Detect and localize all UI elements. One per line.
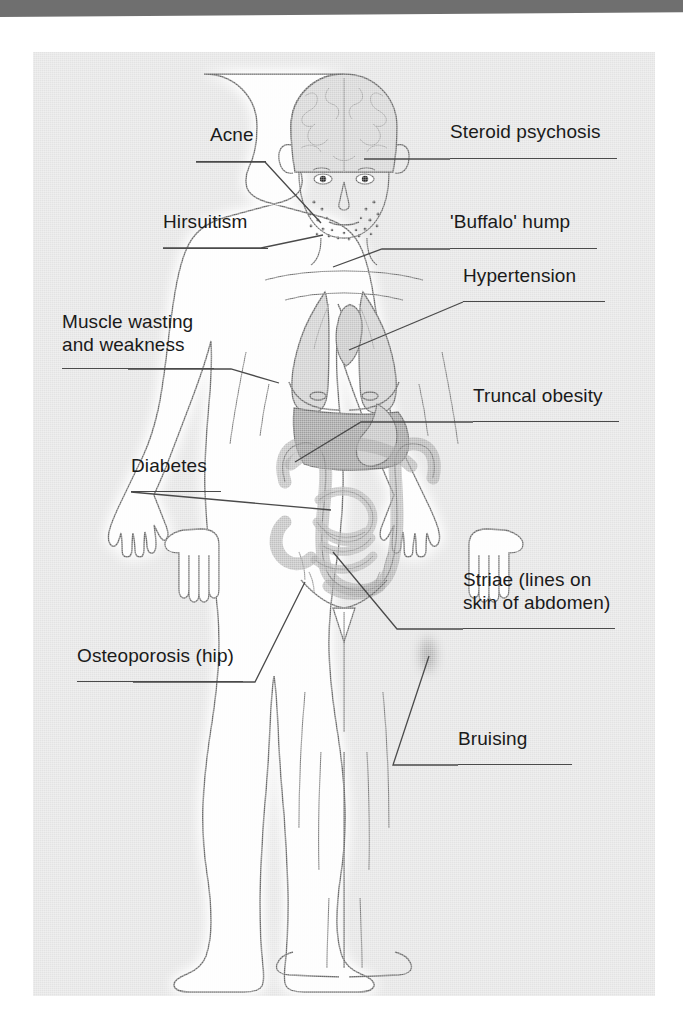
label-osteoporosis: Osteoporosis (hip): [77, 644, 234, 667]
label-bruising: Bruising: [458, 727, 527, 750]
label-diabetes: Diabetes: [131, 454, 207, 477]
rule-bruising: [458, 764, 572, 765]
rule-striae: [463, 628, 615, 629]
label-striae: Striae (lines on skin of abdomen): [463, 568, 610, 614]
rule-truncal-obesity: [473, 421, 619, 422]
page-top-rule: [0, 0, 683, 17]
rule-hirsuitism: [163, 248, 268, 249]
label-steroid-psychosis: Steroid psychosis: [450, 120, 601, 143]
label-muscle-wasting: Muscle wasting and weakness: [62, 310, 193, 356]
label-striae-line1: Striae (lines on: [463, 569, 591, 590]
rule-muscle-wasting: [62, 368, 214, 369]
label-muscle-wasting-line2: and weakness: [62, 334, 185, 355]
label-acne: Acne: [210, 123, 254, 146]
rule-acne: [196, 161, 266, 162]
patient-body-illustration: [33, 52, 655, 996]
label-truncal-obesity: Truncal obesity: [473, 384, 603, 407]
rule-diabetes: [131, 491, 221, 492]
scanned-page: Steroid psychosis 'Buffalo' hump Hyperte…: [0, 0, 683, 1034]
rule-osteoporosis: [77, 681, 243, 682]
rule-buffalo-hump: [450, 248, 597, 249]
nose-icon: [339, 182, 349, 210]
illustration-panel: Steroid psychosis 'Buffalo' hump Hyperte…: [33, 52, 655, 996]
rule-hypertension: [463, 301, 605, 302]
bruise-icon: [416, 631, 440, 679]
label-muscle-wasting-line1: Muscle wasting: [62, 311, 193, 332]
label-hirsuitism: Hirsuitism: [163, 210, 247, 233]
rule-steroid-psychosis: [450, 158, 617, 159]
label-buffalo-hump: 'Buffalo' hump: [450, 210, 570, 233]
label-hypertension: Hypertension: [463, 264, 576, 287]
label-striae-line2: skin of abdomen): [463, 592, 610, 613]
